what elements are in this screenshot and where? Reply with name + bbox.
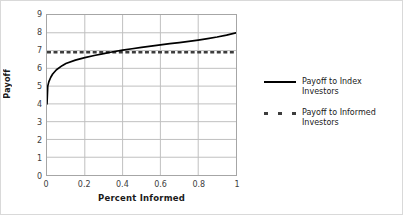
y-tick-label: 3 (37, 118, 42, 127)
y-tick-label: 5 (37, 82, 42, 91)
y-tick-label: 6 (37, 64, 42, 73)
y-tick-label: 9 (37, 10, 42, 19)
x-tick-label: 0.8 (192, 180, 205, 189)
legend-label-index-investors: Payoff to Index Investors (302, 77, 398, 97)
legend-solid-line-icon (263, 77, 297, 87)
y-tick-label: 1 (37, 154, 42, 163)
chart-legend: Payoff to Index Investors Payoff to Info… (263, 77, 401, 139)
payoff-line-chart: 9 8 7 6 5 4 3 2 1 0 Payoff 0 0.2 0.4 0.6… (0, 0, 403, 215)
y-tick-label: 0 (37, 172, 42, 181)
legend-entry-informed-investors: Payoff to Informed Investors (263, 108, 401, 128)
x-tick-label: 1 (234, 180, 239, 189)
x-tick-label: 0.4 (116, 180, 129, 189)
x-tick-label: 0.2 (78, 180, 91, 189)
legend-entry-index-investors: Payoff to Index Investors (263, 77, 401, 97)
data-series-layer (47, 15, 236, 175)
y-tick-label: 7 (37, 46, 42, 55)
x-tick-label: 0.6 (154, 180, 167, 189)
y-axis-title: Payoff (3, 69, 17, 99)
x-axis-tick-labels: 0 0.2 0.4 0.6 0.8 1 (46, 180, 237, 192)
x-axis-title: Percent Informed (46, 193, 237, 203)
plot-area (46, 14, 237, 176)
legend-label-informed-investors: Payoff to Informed Investors (302, 108, 398, 128)
x-tick-label: 0 (43, 180, 48, 189)
legend-dashed-line-icon (263, 108, 297, 118)
y-tick-label: 8 (37, 28, 42, 37)
y-tick-label: 4 (37, 100, 42, 109)
y-tick-label: 2 (37, 136, 42, 145)
series-line-index-investors (47, 33, 236, 104)
